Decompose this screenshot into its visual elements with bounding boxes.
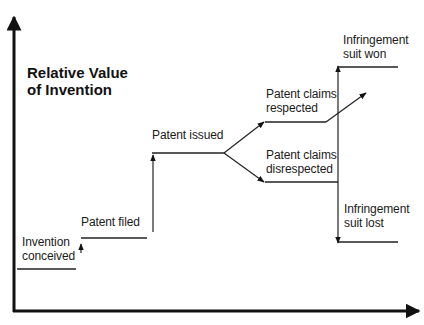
- patent-value-diagram: Relative Value of Invention Invention co…: [0, 0, 424, 325]
- y-axis-title-line2: of Invention: [27, 81, 128, 98]
- label-claims-disrespected: Patent claims disrespected: [266, 148, 337, 176]
- y-axis-title-line1: Relative Value: [27, 64, 128, 81]
- label-claims-respected: Patent claims respected: [266, 87, 337, 115]
- branch-to-respected-arrow: [224, 122, 264, 153]
- label-suit-won: Infringement suit won: [343, 33, 409, 61]
- branch-to-disrespected-arrow: [224, 153, 264, 182]
- label-suit-lost: Infringement suit lost: [344, 202, 410, 230]
- label-patent-filed: Patent filed: [81, 215, 140, 229]
- label-invention-conceived: Invention conceived: [22, 235, 75, 263]
- y-axis-title: Relative Value of Invention: [27, 64, 128, 98]
- label-patent-issued: Patent issued: [152, 128, 223, 142]
